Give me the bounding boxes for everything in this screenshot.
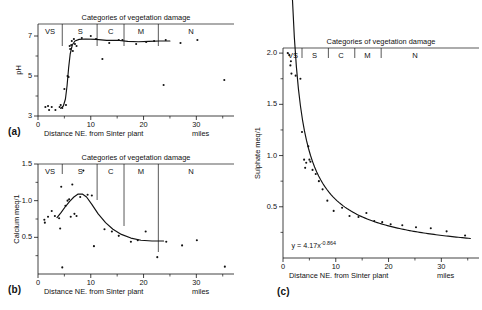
panel-label-c: (c) — [277, 286, 290, 297]
panel-c-ytick-label: 0.5 — [247, 202, 277, 211]
figure-root: Categories of vegetation damage pH Dista… — [0, 0, 482, 310]
panel-a-ytick-label: 5 — [2, 71, 32, 80]
panel-a-xtick-label: 20 — [134, 120, 154, 129]
panel-b-ytick-label: 0.5 — [2, 232, 32, 241]
panel-a-category-m: M — [127, 27, 155, 36]
panel-a-xtick-label: 0 — [28, 120, 48, 129]
panel-b-category-n: N — [177, 167, 205, 176]
panel-a-category-vs: VS — [36, 27, 64, 36]
panel-b-scatter-points — [43, 170, 226, 269]
panel-c-xtick-label: 10 — [326, 262, 346, 271]
panel-c-ytick-label: 2.0 — [247, 48, 277, 57]
panel-c-category-c: C — [327, 51, 355, 60]
panel-b-x-axis-label: Distance NE. from Sinter plant — [44, 287, 143, 296]
panel-b-category-title: Categories of vegetation damage — [38, 153, 234, 162]
panel-a-ytick-label: 7 — [2, 31, 32, 40]
panel-b-category-vs: VS — [36, 167, 64, 176]
panel-b-xtick-label: 30 — [186, 278, 206, 287]
panel-label-a: (a) — [8, 126, 21, 137]
panel-c-sulphate-chart: Categories of vegetation damage Sulphate… — [241, 18, 482, 310]
panel-c-xtick-label: 0 — [273, 262, 293, 271]
panel-a-category-n: N — [177, 27, 205, 36]
panel-b-ytick-label: 1.0 — [2, 196, 32, 205]
panel-b-category-s: S — [66, 167, 94, 176]
panel-a-x-axis-label: Distance NE. from Sinter plant — [44, 129, 143, 138]
panel-a-category-s: S — [66, 27, 94, 36]
panel-a-x-axis-units: miles — [192, 129, 209, 138]
panel-b-xtick-label: 10 — [81, 278, 101, 287]
panel-c-x-axis-units: miles — [437, 271, 454, 280]
panel-c-category-n: N — [401, 51, 429, 60]
panel-c-category-title: Categories of vegetation damage — [283, 37, 479, 46]
panel-b-xtick-label: 0 — [28, 278, 48, 287]
panel-c-fit-equation-base: y = 4.17x — [291, 241, 320, 250]
panel-a-ph-chart: Categories of vegetation damage pH Dista… — [0, 0, 241, 150]
panel-c-scatter-points — [287, 52, 466, 236]
panel-c-fit-equation-exponent: -0.864 — [321, 240, 336, 246]
panel-a-category-c: C — [97, 27, 125, 36]
panel-c-ytick-label: 1.0 — [247, 151, 277, 160]
panel-a-xtick-label: 10 — [81, 120, 101, 129]
panel-c-xtick-label: 20 — [379, 262, 399, 271]
panel-c-fit-equation: y = 4.17x-0.864 — [291, 240, 336, 250]
panel-b-calcium-chart: Categories of vegetation damage Calcium … — [0, 152, 241, 310]
panel-c-category-s: S — [301, 51, 329, 60]
panel-c-category-m: M — [353, 51, 381, 60]
panel-a-xtick-label: 30 — [186, 120, 206, 129]
panel-c-ytick-label: 1.5 — [247, 99, 277, 108]
panel-a-ytick-label: 3 — [2, 111, 32, 120]
panel-b-fit-curve — [57, 194, 164, 241]
panel-label-b: (b) — [8, 284, 21, 295]
panel-b-x-axis-units: miles — [192, 287, 209, 296]
panel-c-fit-curve — [288, 0, 470, 238]
panel-b-category-c: C — [97, 167, 125, 176]
panel-a-fit-curve — [61, 39, 170, 108]
panel-a-category-title: Categories of vegetation damage — [38, 13, 234, 22]
panel-b-xtick-label: 20 — [134, 278, 154, 287]
panel-c-xtick-label: 30 — [431, 262, 451, 271]
panel-b-ytick-label: 1.5 — [2, 159, 32, 168]
panel-c-x-axis-label: Distance NE. from Sinter plant — [289, 271, 388, 280]
panel-b-category-m: M — [127, 167, 155, 176]
